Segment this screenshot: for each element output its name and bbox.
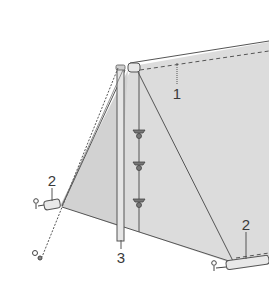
pole <box>117 68 124 241</box>
callout-label-1: 1 <box>173 86 181 101</box>
top-roll-cap <box>128 63 140 72</box>
tent-diagram: 1 2 2 3 <box>0 0 269 281</box>
callout-label-2-right: 2 <box>242 217 250 232</box>
right-roll-peg <box>212 261 226 271</box>
callout-label-2-left: 2 <box>48 173 56 188</box>
ground-stake <box>33 251 43 261</box>
diagram-canvas <box>0 0 269 281</box>
callout-label-3: 3 <box>117 250 125 265</box>
left-roll-peg <box>34 199 44 209</box>
